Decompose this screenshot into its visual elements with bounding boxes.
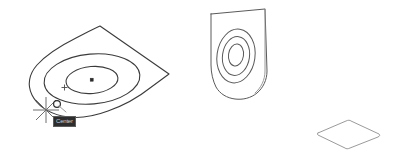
snap-leader-line (59, 106, 66, 112)
flat-rect-plate-object[interactable] (317, 120, 379, 149)
upright-plate-outer-circle (213, 27, 258, 86)
upright-plate-mid-circle (220, 35, 252, 77)
upright-plate-outer-boundary (211, 9, 267, 99)
snap-tooltip: Center (53, 116, 76, 127)
main-plate-center-point-marker (90, 78, 93, 81)
upright-plate-inner-circle (227, 43, 245, 67)
upright-plate-side-edge (255, 9, 265, 93)
cad-model-viewport[interactable]: Center (0, 0, 396, 161)
model-wireframe-canvas (0, 0, 396, 161)
upright-plate-object[interactable] (211, 9, 267, 99)
flat-rect-plate-outer-boundary (317, 120, 379, 149)
snap-tooltip-label: Center (56, 118, 73, 125)
main-plate-object[interactable] (29, 26, 169, 117)
